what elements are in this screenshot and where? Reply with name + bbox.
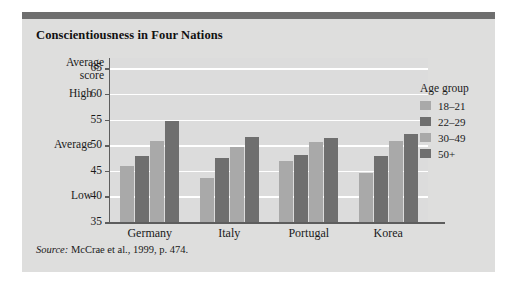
- y-tick-label: 45: [78, 164, 102, 176]
- legend-swatch: [420, 101, 431, 110]
- legend: Age group 18–2122–2930–4950+: [420, 82, 498, 164]
- bar[interactable]: [200, 178, 214, 222]
- bar-group: [269, 58, 349, 222]
- source-label: Source:: [36, 244, 68, 255]
- y-tick-mark: [105, 68, 109, 70]
- legend-item[interactable]: 22–29: [420, 116, 498, 127]
- x-axis-category-label: Korea: [349, 226, 429, 241]
- legend-item[interactable]: 18–21: [420, 100, 498, 111]
- bar[interactable]: [165, 121, 179, 222]
- bar[interactable]: [120, 166, 134, 222]
- y-tick-mark: [105, 171, 109, 173]
- y-tick-mark: [105, 196, 109, 198]
- y-tick-mark: [105, 94, 109, 96]
- y-tick-mark: [105, 120, 109, 122]
- y-tick-mark: [105, 222, 109, 224]
- legend-swatch: [420, 149, 431, 158]
- x-axis-line: [109, 222, 445, 224]
- bar-group: [110, 58, 190, 222]
- bar[interactable]: [374, 156, 388, 222]
- top-rule-decoration: [22, 12, 495, 19]
- legend-swatch: [420, 133, 431, 142]
- bar[interactable]: [135, 156, 149, 222]
- bar[interactable]: [294, 155, 308, 222]
- bar[interactable]: [230, 147, 244, 222]
- bar[interactable]: [404, 134, 418, 222]
- plot-area: [110, 58, 428, 222]
- y-tick-label: 40: [78, 189, 102, 201]
- y-tick-label: 35: [78, 215, 102, 227]
- bar[interactable]: [359, 173, 373, 222]
- legend-item[interactable]: 30–49: [420, 132, 498, 143]
- legend-item-label: 50+: [438, 148, 455, 160]
- bar[interactable]: [279, 161, 293, 223]
- source-note: Source: McCrae et al., 1999, p. 474.: [36, 244, 188, 255]
- legend-item-label: 18–21: [438, 100, 466, 112]
- figure-panel: Conscientiousness in Four Nations Averag…: [22, 12, 495, 272]
- legend-title: Age group: [420, 82, 498, 94]
- y-tick-label: 60: [78, 87, 102, 99]
- x-axis-category-label: Germany: [110, 226, 190, 241]
- y-tick-mark: [105, 145, 109, 147]
- bar-group: [349, 58, 429, 222]
- source-citation: McCrae et al., 1999, p. 474.: [68, 244, 188, 255]
- bar[interactable]: [389, 141, 403, 222]
- x-axis-category-label: Italy: [190, 226, 270, 241]
- legend-swatch: [420, 117, 431, 126]
- bar[interactable]: [150, 141, 164, 222]
- legend-item-label: 22–29: [438, 116, 466, 128]
- bar[interactable]: [324, 138, 338, 222]
- legend-item[interactable]: 50+: [420, 148, 498, 159]
- legend-items: 18–2122–2930–4950+: [420, 100, 498, 159]
- y-tick-label: 65: [78, 61, 102, 73]
- bar[interactable]: [245, 137, 259, 222]
- bar[interactable]: [309, 142, 323, 222]
- x-axis-category-label: Portugal: [269, 226, 349, 241]
- legend-item-label: 30–49: [438, 132, 466, 144]
- bar-group: [190, 58, 270, 222]
- bar[interactable]: [215, 158, 229, 222]
- y-tick-label: 50: [78, 138, 102, 150]
- y-tick-label: 55: [78, 113, 102, 125]
